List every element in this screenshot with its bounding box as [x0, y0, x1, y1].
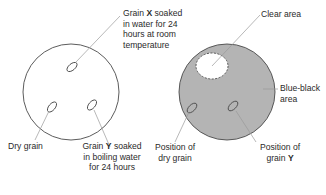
label-grain-x: Grain X soaked in water for 24 hours at …	[123, 8, 182, 50]
label-clear-area: Clear area	[261, 9, 301, 20]
right-petri-dish	[179, 44, 275, 140]
label-grain-y: Grain Y soaked in boiling water for 24 h…	[72, 141, 152, 173]
label-dry-grain: Dry grain	[8, 141, 43, 152]
label-grain-y-position: Position of grain Y	[250, 142, 310, 163]
leader-dry-position	[175, 112, 189, 142]
left-petri-dish	[23, 44, 119, 140]
label-blue-black-area: Blue-black area	[280, 83, 320, 104]
label-dry-grain-position: Position of dry grain	[145, 142, 205, 163]
